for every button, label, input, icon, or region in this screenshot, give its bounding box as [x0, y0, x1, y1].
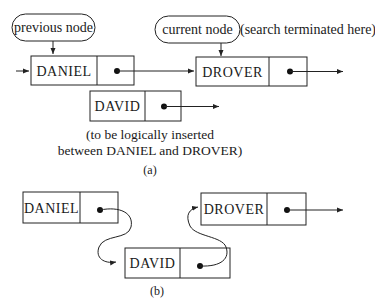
node-name: DAVID: [95, 99, 141, 114]
part-b: DANIEL DAVID DROVER (b): [23, 192, 343, 298]
node-daniel: DANIEL: [31, 56, 194, 85]
linked-list-insertion-diagram: previous node DANIEL current node (searc…: [0, 0, 375, 303]
caption-line-2: between DANIEL and DROVER): [58, 143, 242, 158]
node-name: DROVER: [202, 65, 263, 80]
node-name: DANIEL: [36, 64, 91, 79]
previous-node-pointer: previous node: [12, 14, 95, 54]
node-david: DAVID: [125, 207, 230, 278]
current-node-pointer: current node (search terminated here): [155, 16, 375, 56]
node-daniel: DANIEL: [23, 192, 131, 262]
current-node-label: current node: [162, 22, 232, 37]
node-name: DANIEL: [24, 201, 79, 216]
figure-label-a: (a): [143, 163, 156, 177]
node-drover: DROVER: [201, 193, 343, 225]
part-a: previous node DANIEL current node (searc…: [12, 14, 375, 177]
node-name: DAVID: [130, 256, 176, 271]
caption-line-1: (to be logically inserted: [86, 127, 214, 142]
node-name: DROVER: [204, 202, 265, 217]
previous-node-label: previous node: [14, 20, 93, 35]
link-arrow-icon: [98, 209, 131, 262]
node-david: DAVID: [90, 91, 219, 121]
figure-label-b: (b): [150, 284, 164, 298]
search-terminated-note: (search terminated here): [240, 22, 375, 38]
node-drover: DROVER: [196, 57, 343, 86]
